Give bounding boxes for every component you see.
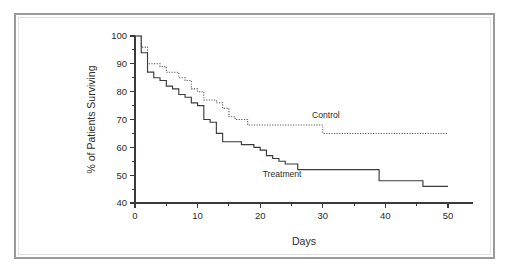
y-tick-label: 90 xyxy=(116,58,127,69)
y-tick-label: 100 xyxy=(111,30,127,41)
x-tick-label: 50 xyxy=(443,210,454,221)
x-tick-label: 30 xyxy=(317,210,328,221)
y-tick-label: 40 xyxy=(116,197,127,208)
y-axis-tick-labels: 405060708090100 xyxy=(111,30,127,208)
y-axis-title: % of Patients Surviving xyxy=(85,65,97,173)
series-line-treatment xyxy=(135,36,448,186)
survival-curve-chart: 405060708090100 01020304050 ControlTreat… xyxy=(14,13,495,259)
chart-axes xyxy=(135,36,473,203)
x-tick-label: 20 xyxy=(255,210,266,221)
x-axis-tick-labels: 01020304050 xyxy=(132,210,453,221)
x-axis-title: Days xyxy=(292,235,316,247)
series-annotation-treatment: Treatment xyxy=(263,169,302,179)
y-tick-label: 60 xyxy=(116,142,127,153)
x-tick-label: 10 xyxy=(192,210,203,221)
y-tick-label: 50 xyxy=(116,170,127,181)
series-annotation-control: Control xyxy=(312,110,340,120)
chart-series-lines xyxy=(135,36,448,186)
x-tick-label: 40 xyxy=(380,210,391,221)
series-line-control xyxy=(135,36,448,133)
y-tick-label: 80 xyxy=(116,86,127,97)
y-tick-label: 70 xyxy=(116,114,127,125)
figure-root: 405060708090100 01020304050 ControlTreat… xyxy=(0,0,517,279)
x-axis-ticks xyxy=(135,203,448,208)
y-axis-ticks xyxy=(130,36,135,203)
x-tick-label: 0 xyxy=(132,210,137,221)
chart-series-annotations: ControlTreatment xyxy=(263,110,340,179)
